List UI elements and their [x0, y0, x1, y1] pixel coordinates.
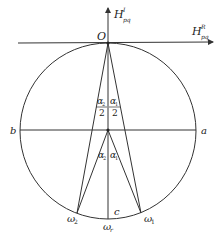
- origin-label: O: [97, 30, 106, 43]
- origin-dot: [106, 41, 109, 44]
- svg-text:2: 2: [74, 218, 78, 225]
- horizontal-axis-label: H R pq: [191, 23, 209, 41]
- svg-text:1: 1: [151, 218, 155, 225]
- circle-diagram: H I pq H R pq O b a c ω 2 ω 1 ω r α 2 2 …: [0, 0, 222, 234]
- line-center-omega1: [108, 130, 141, 213]
- vertical-axis-label: H I pq: [113, 6, 131, 24]
- horizontal-axis: [18, 42, 213, 43]
- angle-alpha1-half: α 1 2: [109, 96, 120, 118]
- svg-text:r: r: [110, 226, 114, 233]
- point-c-label: c: [114, 206, 120, 217]
- svg-text:I: I: [122, 6, 126, 13]
- angle-alpha2: α 2: [98, 150, 106, 161]
- point-a-label: a: [201, 125, 207, 136]
- point-b-label: b: [10, 125, 16, 136]
- svg-text:pq: pq: [201, 33, 209, 41]
- omega-r-label: ω r: [103, 221, 114, 233]
- svg-text:1: 1: [115, 155, 118, 161]
- omega2-label: ω 2: [67, 213, 78, 225]
- svg-text:2: 2: [102, 101, 105, 107]
- svg-text:pq: pq: [123, 16, 131, 24]
- line-o-omega2: [77, 43, 108, 213]
- svg-text:2: 2: [99, 108, 105, 118]
- line-center-omega2: [77, 130, 108, 213]
- center-dot: [106, 128, 109, 131]
- svg-text:2: 2: [112, 108, 118, 118]
- svg-text:1: 1: [115, 101, 118, 107]
- angle-alpha2-half: α 2 2: [96, 96, 107, 118]
- omega1-label: ω 1: [144, 213, 155, 225]
- svg-text:2: 2: [103, 155, 106, 161]
- line-o-omega1: [108, 43, 141, 213]
- svg-text:R: R: [200, 23, 206, 30]
